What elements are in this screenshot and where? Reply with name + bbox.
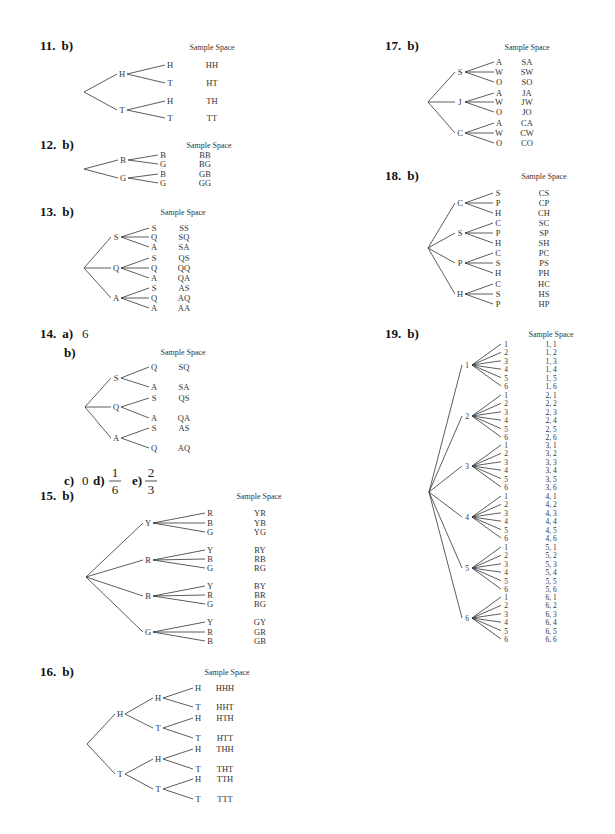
answer-key-tree-diagrams: 11.b)Sample SpaceHHTTHTHHHTTHTT12.b)Samp… <box>0 0 615 834</box>
tree-branch <box>428 72 455 102</box>
problem-number: 17.b) <box>385 38 419 53</box>
tree-branch <box>465 93 494 102</box>
tree-leaf: 6 <box>504 382 508 391</box>
sample-space-outcome: YG <box>254 527 266 537</box>
tree-node: 6 <box>465 614 469 623</box>
sample-space-outcome: HS <box>539 289 550 299</box>
tree-branch <box>85 378 111 407</box>
problem-18: 18.b)Sample SpaceCSPHSCPHPCSHHCSPCSCPCHS… <box>385 168 567 309</box>
tree-branch <box>153 559 205 560</box>
tree-branch <box>84 74 117 92</box>
tree-leaf: A <box>151 273 158 283</box>
sample-space-outcome: JW <box>521 97 532 107</box>
tree-branch <box>465 263 493 273</box>
sample-space-outcome: PH <box>539 268 550 278</box>
part-d-label: d) <box>93 473 105 488</box>
sample-space-outcome: 4, 6 <box>545 534 557 543</box>
tree-leaf: T <box>167 113 173 123</box>
tree-branch <box>465 102 494 112</box>
tree-branch <box>465 123 494 133</box>
fraction-numerator: 2 <box>148 465 155 480</box>
tree-branch <box>163 728 193 738</box>
tree-branch <box>128 174 158 178</box>
sample-space-outcome: CH <box>538 208 550 218</box>
tree-leaf: H <box>495 208 501 218</box>
tree-branch <box>84 160 118 169</box>
sample-space-outcome: HHT <box>216 702 234 712</box>
sample-space-outcome: JO <box>522 107 531 117</box>
problem-number: 18.b) <box>385 168 419 183</box>
tree-leaf: S <box>496 188 501 198</box>
sample-space-outcome: SC <box>539 218 550 228</box>
tree-leaf: S <box>152 253 157 263</box>
tree-node: Q <box>113 402 119 412</box>
tree-node: H <box>457 289 463 299</box>
sample-space-outcome: SO <box>522 77 533 87</box>
tree-branch <box>85 407 111 438</box>
tree-node: S <box>114 232 119 242</box>
tree-node: Q <box>113 263 119 273</box>
sample-space-outcome: CW <box>520 128 534 138</box>
tree-leaf: T <box>167 78 173 88</box>
tree-node: T <box>155 723 161 733</box>
tree-leaf: A <box>151 382 158 392</box>
sample-space-header: Sample Space <box>528 330 574 339</box>
tree-node: 2 <box>465 412 469 421</box>
tree-leaf: W <box>495 128 503 138</box>
tree-leaf: Q <box>151 263 157 273</box>
tree-branch <box>163 698 193 707</box>
sample-space-outcome: GB <box>254 636 266 646</box>
tree-branch <box>125 759 153 774</box>
tree-branch <box>465 284 493 294</box>
part-e-label: e) <box>132 473 142 488</box>
tree-branch <box>84 169 118 178</box>
problem-number: 13.b) <box>40 204 74 219</box>
tree-leaf: H <box>195 683 201 693</box>
sample-space-outcome: HH <box>206 60 218 70</box>
tree-branch <box>153 523 205 532</box>
fraction-numerator: 1 <box>112 465 119 480</box>
tree-node: H <box>155 754 161 764</box>
sample-space-outcome: 6, 6 <box>545 635 557 644</box>
tree-branch <box>127 110 165 118</box>
sample-space-outcome: GG <box>199 178 211 188</box>
tree-leaf: C <box>495 218 501 228</box>
tree-leaf: W <box>495 97 503 107</box>
sample-space-outcome: 1, 6 <box>545 382 557 391</box>
tree-branch <box>127 74 165 83</box>
tree-branch <box>153 560 205 568</box>
tree-leaf: H <box>167 96 173 106</box>
sample-space-outcome: RG <box>254 563 266 573</box>
tree-leaf: T <box>195 702 201 712</box>
tree-branch <box>128 178 158 183</box>
tree-leaf: A <box>151 303 158 313</box>
tree-branch <box>163 779 193 789</box>
sample-space-outcome: CO <box>521 138 533 148</box>
tree-branch <box>121 428 149 438</box>
sample-space-outcome: AA <box>178 303 191 313</box>
tree-node: T <box>155 784 161 794</box>
tree-branch <box>428 102 455 133</box>
tree-branch <box>153 550 205 560</box>
sample-space-header: Sample Space <box>189 43 235 52</box>
tree-branch <box>465 253 493 263</box>
tree-branch <box>84 268 111 298</box>
tree-leaf: Q <box>151 232 157 242</box>
answer-a-value: 6 <box>82 326 89 341</box>
tree-node: J <box>458 97 462 107</box>
tree-leaf: S <box>152 283 157 293</box>
sample-space-outcome: TTT <box>217 794 233 804</box>
tree-branch <box>428 203 455 248</box>
tree-leaf: Q <box>151 443 157 453</box>
tree-leaf: G <box>207 563 213 573</box>
tree-leaf: O <box>496 77 502 87</box>
sample-space-outcome: PC <box>539 248 550 258</box>
tree-leaf: R <box>207 508 213 518</box>
tree-node: G <box>120 173 126 183</box>
problem-14: 14.a)6b)Sample SpaceSQAQSAASQSQSAQSQAASA… <box>40 326 206 497</box>
sample-space-outcome: SA <box>522 57 534 67</box>
sample-space-outcome: TH <box>206 96 217 106</box>
tree-branch <box>153 632 205 641</box>
sample-space-outcome: BG <box>199 159 211 169</box>
tree-node: T <box>119 105 125 115</box>
